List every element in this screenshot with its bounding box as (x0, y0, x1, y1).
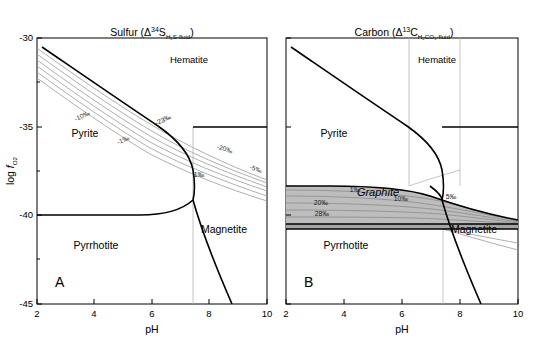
panel-a-x-axis-label: pH (145, 323, 158, 335)
panel-b-plot-frame (286, 38, 518, 304)
panel-a: Sulfur (Δ34SH₂S-fluid) Hematite Pyrite P… (0, 0, 536, 342)
y-tick-minus45: -45 (19, 298, 33, 309)
panel-a-letter: A (55, 274, 65, 290)
panel-a-field-pyrite: Pyrite (72, 127, 99, 139)
panel-b-letter: B (304, 274, 313, 290)
y-tick-minus35: -35 (19, 121, 33, 132)
panel-b-x-axis-label: pH (395, 323, 408, 335)
y-tick-minus40: -40 (19, 209, 33, 220)
panel-b-field-magnetite: Magnetite (451, 223, 497, 235)
panel-a-x-tick-2: 2 (34, 308, 39, 319)
panel-b-field-pyrite: Pyrite (321, 127, 348, 139)
panel-b-x-tick-6: 6 (399, 308, 404, 319)
panel-b-contour-label-1: 1‰ (350, 186, 361, 193)
panel-a-contour-label-plus1: 1‰ (194, 171, 205, 178)
panel-b-field-hematite: Hematite (418, 54, 456, 65)
panel-a-x-tick-8: 8 (206, 308, 211, 319)
panel-a-plot-frame (37, 38, 267, 304)
panel-b-x-tick-2: 2 (283, 308, 288, 319)
figure-root: Sulfur (Δ34SH₂S-fluid) Hematite Pyrite P… (0, 0, 536, 342)
panel-a-field-pyrrhotite: Pyrrhotite (74, 239, 119, 251)
panel-b-x-tick-4: 4 (341, 308, 346, 319)
panel-b-contour-label-20: 20‰ (314, 199, 329, 206)
panel-b-contour-label-28: 28‰ (315, 210, 330, 217)
panel-b-contour-label-10: 10‰ (394, 195, 409, 202)
panel-b-contour-label-5: 5‰ (446, 193, 457, 200)
panel-a-x-tick-4: 4 (91, 308, 96, 319)
panel-a-x-tick-6: 6 (149, 308, 154, 319)
panel-a-field-hematite: Hematite (170, 54, 208, 65)
panel-a-x-tick-10: 10 (262, 308, 273, 319)
panel-b-field-pyrrhotite: Pyrrhotite (324, 239, 369, 251)
panel-b-x-tick-10: 10 (513, 308, 524, 319)
y-axis-label: log fO2 (4, 156, 18, 185)
panel-b-field-graphite: Graphite (357, 186, 399, 198)
panel-b-x-tick-8: 8 (457, 308, 462, 319)
y-tick-minus30: -30 (19, 32, 33, 43)
panel-a-field-magnetite: Magnetite (201, 223, 247, 235)
